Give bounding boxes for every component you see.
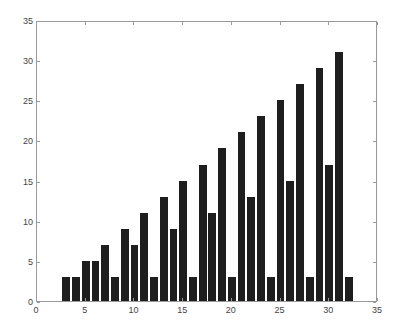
bar	[101, 245, 109, 301]
y-tick-mark	[37, 21, 40, 22]
bar	[160, 197, 168, 301]
x-tick-mark	[36, 298, 37, 301]
x-tick-mark	[133, 298, 134, 301]
x-tick-mark	[328, 22, 329, 25]
x-tick-mark	[85, 298, 86, 301]
x-tick-label: 5	[82, 305, 87, 315]
y-tick-mark	[37, 101, 40, 102]
x-tick-label: 35	[372, 305, 382, 315]
y-tick-label: 25	[23, 96, 33, 106]
y-tick-label: 35	[23, 16, 33, 26]
x-tick-label: 20	[226, 305, 236, 315]
bar	[121, 229, 129, 301]
y-tick-mark	[373, 302, 376, 303]
bar	[306, 277, 314, 301]
x-tick-label: 10	[128, 305, 138, 315]
x-tick-label: 0	[33, 305, 38, 315]
x-tick-mark	[328, 298, 329, 301]
y-tick-mark	[37, 141, 40, 142]
bar	[325, 165, 333, 301]
x-tick-mark	[182, 22, 183, 25]
bar	[62, 277, 70, 301]
y-tick-mark	[37, 222, 40, 223]
y-tick-mark	[373, 101, 376, 102]
plot-area	[36, 21, 377, 302]
bar	[296, 84, 304, 301]
x-tick-mark	[85, 22, 86, 25]
y-tick-label: 20	[23, 136, 33, 146]
x-tick-mark	[231, 22, 232, 25]
y-tick-mark	[373, 21, 376, 22]
bar	[218, 148, 226, 301]
bar	[140, 213, 148, 301]
x-tick-mark	[377, 22, 378, 25]
bar	[92, 261, 100, 301]
bar	[335, 52, 343, 301]
bar	[267, 277, 275, 301]
bar	[111, 277, 119, 301]
x-tick-mark	[231, 298, 232, 301]
y-tick-mark	[373, 61, 376, 62]
x-tick-mark	[36, 22, 37, 25]
bar	[150, 277, 158, 301]
x-tick-label: 25	[275, 305, 285, 315]
y-tick-label: 0	[28, 297, 33, 307]
bar	[277, 100, 285, 301]
bar	[286, 181, 294, 301]
y-tick-label: 10	[23, 217, 33, 227]
y-tick-mark	[37, 61, 40, 62]
x-tick-mark	[280, 22, 281, 25]
x-tick-mark	[182, 298, 183, 301]
bar	[345, 277, 353, 301]
bar	[247, 197, 255, 301]
x-tick-mark	[133, 22, 134, 25]
y-tick-mark	[373, 141, 376, 142]
bar	[131, 245, 139, 301]
y-tick-mark	[373, 222, 376, 223]
x-tick-label: 15	[177, 305, 187, 315]
bar	[316, 68, 324, 301]
y-tick-label: 5	[28, 257, 33, 267]
y-tick-mark	[37, 182, 40, 183]
y-tick-mark	[37, 302, 40, 303]
bar	[72, 277, 80, 301]
bar	[238, 132, 246, 301]
bar	[208, 213, 216, 301]
y-tick-mark	[373, 182, 376, 183]
bar	[179, 181, 187, 301]
bar	[82, 261, 90, 301]
y-tick-mark	[373, 262, 376, 263]
x-tick-mark	[280, 298, 281, 301]
y-tick-label: 30	[23, 56, 33, 66]
bar	[170, 229, 178, 301]
bar	[228, 277, 236, 301]
bar	[257, 116, 265, 301]
bar	[189, 277, 197, 301]
x-tick-label: 30	[323, 305, 333, 315]
x-tick-mark	[377, 298, 378, 301]
bar	[199, 165, 207, 301]
y-tick-mark	[37, 262, 40, 263]
y-tick-label: 15	[23, 177, 33, 187]
